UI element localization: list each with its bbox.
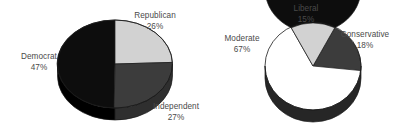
pie-label-conservative: Conservative 18% — [325, 30, 405, 51]
pie-label-moderate: Moderate 67% — [210, 34, 274, 55]
pie-label-liberal: Liberal 15% — [278, 4, 334, 25]
pie-label-independent: Independent 27% — [139, 102, 213, 123]
pie-chart-figure: Republican 26% Democrat 47% Independent … — [0, 0, 419, 138]
pie-label-independent-name: Independent — [139, 102, 213, 113]
pie-label-independent-value: 27% — [139, 113, 213, 124]
pie-label-republican-value: 26% — [118, 22, 192, 33]
pie-label-moderate-value: 67% — [210, 45, 274, 56]
pie-side-wall-moderate — [265, 66, 361, 122]
pie-label-democrat-name: Democrat — [6, 52, 72, 63]
pie-label-democrat-value: 47% — [6, 63, 72, 74]
chart-panel-political-ideology: Liberal 15% Conservative 18% Moderate 67… — [210, 0, 419, 138]
pie-label-republican-name: Republican — [118, 11, 192, 22]
pie-label-conservative-value: 18% — [325, 41, 405, 52]
pie-label-moderate-name: Moderate — [210, 34, 274, 45]
chart-panel-party-affiliation: Republican 26% Democrat 47% Independent … — [0, 0, 210, 138]
pie-label-democrat: Democrat 47% — [6, 52, 72, 73]
pie-label-conservative-name: Conservative — [325, 30, 405, 41]
pie-label-republican: Republican 26% — [118, 11, 192, 32]
pie-label-liberal-value: 15% — [278, 15, 334, 26]
pie-label-liberal-name: Liberal — [278, 4, 334, 15]
